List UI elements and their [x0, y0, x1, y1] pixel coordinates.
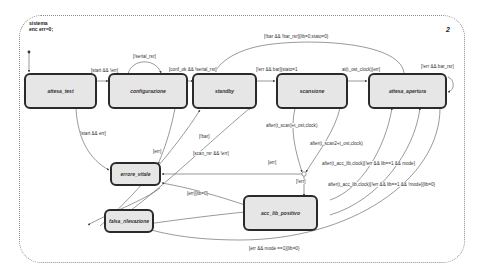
transition-label: [!err && bar]{stato=1: [256, 67, 298, 72]
junction-node: [302, 172, 306, 176]
transition-label: [err && mode ==1]{lib=0}: [249, 246, 299, 251]
transition-label: [start && !err]: [91, 68, 118, 73]
transition-label: [err]: [268, 160, 276, 165]
state-falsa-rilevazione[interactable]: falsa_rilevazione: [104, 209, 154, 233]
transition-label: [!serial_rsr]: [133, 54, 156, 59]
state-standby[interactable]: standby: [192, 73, 257, 109]
transition-label: after(t_acc_lib,clock)[!err && lib==1 &&…: [322, 161, 415, 166]
state-errore-vitale[interactable]: errore_vitale: [110, 162, 161, 186]
transition-label: at(t_ost_clock)[err]: [342, 67, 380, 72]
state-label: errore_vitale: [120, 171, 150, 177]
transition-label: after(t_acc_lib,clock)[!err && lib==1 &&…: [328, 182, 435, 187]
transition-label: [!bar]: [199, 134, 209, 139]
state-scansione[interactable]: scansione: [276, 73, 348, 109]
state-configurazione[interactable]: configurazione: [108, 73, 188, 109]
transition-label: after(t_scan]+t_ost,clock): [266, 123, 317, 128]
transition-label: [conf_ok && !serial_rsr]: [169, 67, 217, 72]
state-attesa-test[interactable]: attesa_test: [24, 73, 97, 109]
state-label: attesa_test: [47, 88, 73, 94]
state-acc-lib-positivo[interactable]: acc_lib_positivo: [243, 195, 318, 231]
transition-label: [!err && bar_rsr]: [421, 64, 454, 69]
state-label: configurazione: [130, 88, 166, 94]
state-label: falsa_rilevazione: [109, 218, 149, 224]
state-attesa-apertura[interactable]: attesa_apertura: [368, 73, 447, 109]
state-label: acc_lib_positivo: [261, 210, 300, 216]
transition-label: [!err]: [296, 179, 305, 184]
state-label: standby: [215, 88, 234, 94]
transition-label: [start && err]: [80, 131, 106, 136]
transition-label: [err]{lib=0}: [187, 191, 208, 196]
transition-label: after(t_scan2+t_ost,clock): [310, 141, 363, 146]
state-label: attesa_apertura: [389, 88, 426, 94]
state-label: scansione: [300, 88, 324, 94]
transition-edges: [0, 0, 477, 276]
transition-label: [!bar && !bar_rsr]{lib=0;stato=0}: [264, 34, 328, 39]
transition-label: [err]: [153, 149, 161, 154]
transition-label: [scan_rsr && !err]: [193, 151, 229, 156]
